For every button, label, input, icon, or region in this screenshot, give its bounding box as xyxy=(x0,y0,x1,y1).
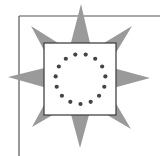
dot xyxy=(68,100,72,104)
dot xyxy=(54,74,58,78)
figure xyxy=(0,0,160,156)
dot xyxy=(64,57,68,61)
dot xyxy=(57,64,61,68)
dot xyxy=(84,52,88,56)
dot xyxy=(55,85,59,89)
dot xyxy=(89,100,93,104)
dot xyxy=(97,94,101,98)
dot xyxy=(103,74,107,78)
star-square-emblem xyxy=(0,0,160,156)
dot xyxy=(93,57,97,61)
dot xyxy=(60,94,64,98)
dot xyxy=(73,52,77,56)
dot xyxy=(100,64,104,68)
dot xyxy=(78,102,82,106)
dot xyxy=(102,85,106,89)
